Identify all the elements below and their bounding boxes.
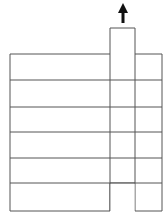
stacked-blocks-diagram — [0, 0, 165, 224]
up-arrow-icon — [118, 3, 128, 23]
raised-tab — [110, 28, 135, 54]
right-column-outline — [135, 28, 162, 211]
middle-column-gap — [111, 184, 135, 214]
